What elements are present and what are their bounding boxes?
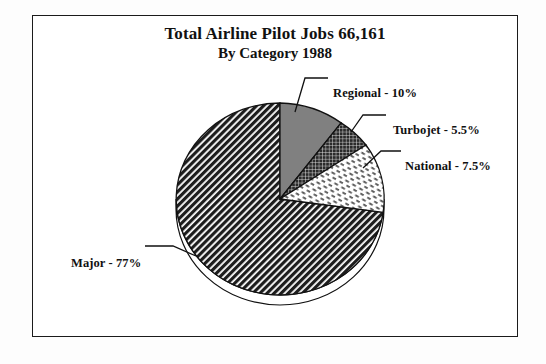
- pie-label-national: National - 7.5%: [405, 159, 491, 174]
- pie-chart: [33, 16, 519, 338]
- leader-line-turbojet: [351, 115, 386, 132]
- pie-label-major: Major - 77%: [71, 256, 141, 271]
- chart-frame: Total Airline Pilot Jobs 66,161 By Categ…: [32, 15, 518, 337]
- scanned-page: Total Airline Pilot Jobs 66,161 By Categ…: [0, 0, 546, 364]
- pie-slices: [176, 103, 384, 295]
- pie-label-turbojet: Turbojet - 5.5%: [393, 123, 480, 138]
- pie-label-regional: Regional - 10%: [333, 86, 417, 101]
